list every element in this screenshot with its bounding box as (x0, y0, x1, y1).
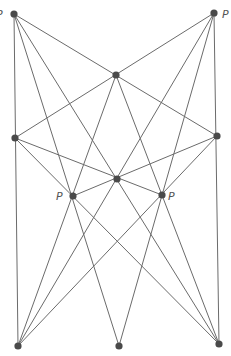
point-C (112, 71, 119, 78)
point-J (115, 342, 122, 349)
point-G (69, 192, 76, 199)
point-label-A: P (0, 8, 3, 21)
point-I (14, 342, 21, 349)
line-B-J (119, 13, 214, 346)
point-B (210, 9, 217, 16)
line-A-I (14, 14, 18, 346)
point-label-H: P (168, 190, 175, 203)
labels-group: PPPP (0, 8, 229, 203)
point-label-G: P (56, 190, 63, 203)
point-F (113, 175, 120, 182)
configuration-diagram: PPPP (0, 0, 231, 356)
point-H (158, 191, 165, 198)
line-A-J (14, 14, 119, 346)
point-label-B: P (222, 8, 229, 21)
point-K (215, 340, 222, 347)
line-D-H (15, 138, 162, 195)
point-A (10, 10, 17, 17)
line-E-I (18, 136, 217, 346)
line-B-K (214, 13, 219, 344)
point-E (213, 132, 220, 139)
point-D (11, 134, 18, 141)
line-C-I (18, 75, 116, 346)
line-E-G (73, 136, 217, 196)
